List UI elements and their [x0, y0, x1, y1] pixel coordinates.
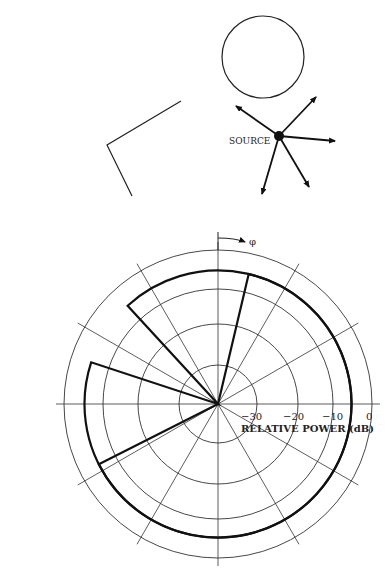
- polar-plot: [56, 242, 380, 566]
- grid-spoke: [78, 323, 218, 404]
- source-figure: SOURCE: [107, 16, 335, 196]
- arrow: [279, 136, 309, 187]
- ring-label-10: −10: [322, 411, 343, 422]
- angle-indicator: φ: [218, 232, 256, 250]
- grid-spoke: [218, 264, 299, 404]
- grid-spoke: [137, 264, 218, 404]
- reflector-line: [107, 101, 181, 196]
- diagram-canvas: SOURCE φ −30 −20 −10 0 RELATIVE POWER (d…: [0, 0, 387, 575]
- source-label: SOURCE: [229, 136, 270, 146]
- obstacle-circle: [222, 16, 304, 98]
- phi-label: φ: [249, 236, 256, 247]
- grid-spoke: [218, 323, 358, 404]
- arrow: [279, 97, 316, 136]
- axis-title: RELATIVE POWER (dB): [241, 423, 374, 434]
- grid-spoke: [78, 404, 218, 485]
- ring-label-20: −20: [283, 411, 304, 422]
- ring-label-0: 0: [366, 411, 372, 422]
- arrow: [236, 106, 279, 136]
- ring-label-30: −30: [241, 411, 262, 422]
- arrow: [279, 136, 335, 141]
- source-dot: [274, 131, 284, 141]
